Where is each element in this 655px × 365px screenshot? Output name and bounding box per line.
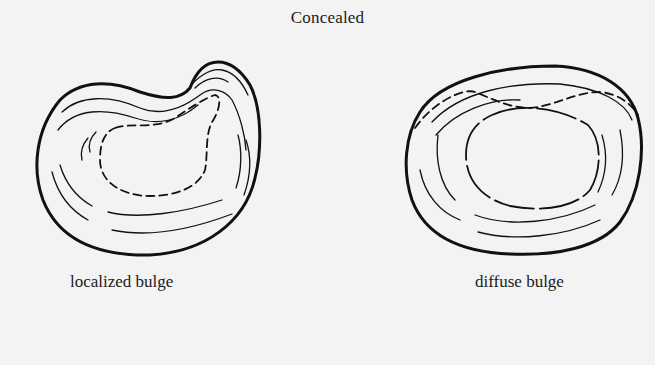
- left-nucleus-dashed: [100, 95, 219, 196]
- right-nucleus-outline: [466, 108, 599, 209]
- left-outer-outline: [37, 62, 260, 255]
- panel-label-localized: localized bulge: [70, 272, 173, 292]
- diagram-figure: [0, 0, 655, 365]
- diffuse-bulge-drawing: [406, 66, 641, 254]
- right-outer-outline: [406, 66, 641, 254]
- localized-bulge-drawing: [37, 62, 260, 255]
- panel-label-diffuse: diffuse bulge: [475, 272, 564, 292]
